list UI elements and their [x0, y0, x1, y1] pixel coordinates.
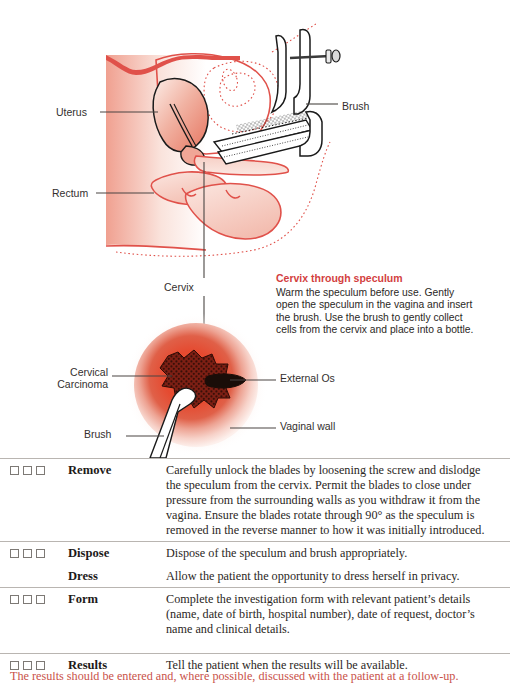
checklist-step-description: Dispose of the speculum and brush approp…	[166, 542, 510, 565]
speculum-arm-lower	[272, 36, 286, 112]
label-cervix: Cervix	[164, 281, 194, 293]
checklist-step-label: Remove	[68, 459, 166, 542]
checklist-step-label: Dress	[68, 565, 166, 588]
textbook-page: Uterus Rectum Brush Cervix Cervical Carc…	[0, 0, 510, 685]
checklist-spacer-cell	[0, 640, 510, 654]
cervix-through-speculum-note: Cervix through speculum Warm the speculu…	[276, 272, 476, 337]
sidenote-body: Warm the speculum before use. Gently ope…	[276, 287, 476, 337]
thumbscrew-knob	[332, 50, 340, 62]
checkbox-group	[10, 595, 68, 604]
thumbscrew-collar	[326, 50, 331, 63]
cervix-view-group	[112, 313, 276, 458]
procedure-checklist: RemoveCarefully unlock the blades by loo…	[0, 458, 510, 676]
checklist-row: RemoveCarefully unlock the blades by loo…	[0, 459, 510, 542]
checklist-row: DressAllow the patient the opportunity t…	[0, 565, 510, 588]
checklist-table: RemoveCarefully unlock the blades by loo…	[0, 458, 510, 676]
speculum-arm-upper	[294, 29, 310, 114]
checklist-row: FormComplete the investigation form with…	[0, 587, 510, 640]
checkbox[interactable]	[10, 466, 19, 475]
bladder-detail-ellipse	[220, 67, 240, 92]
label-rectum: Rectum	[52, 187, 88, 199]
checkbox-cell	[0, 565, 68, 588]
checkbox[interactable]	[36, 466, 45, 475]
label-external-os: External Os	[280, 372, 335, 384]
bottom-caption-clip: The results should be entered and, where…	[0, 672, 510, 685]
checklist-row: DisposeDispose of the speculum and brush…	[0, 542, 510, 565]
checkbox[interactable]	[36, 661, 45, 670]
checkbox-cell	[0, 542, 68, 565]
sidenote-heading: Cervix through speculum	[276, 272, 476, 285]
checkbox[interactable]	[23, 595, 32, 604]
label-vaginal-wall: Vaginal wall	[280, 420, 335, 432]
bottom-caption-text: The results should be entered and, where…	[0, 672, 510, 684]
label-brush-bottom: Brush	[84, 428, 111, 440]
thumbscrew-shaft	[290, 56, 330, 58]
label-cervical-carcinoma: Cervical Carcinoma	[28, 366, 108, 390]
checklist-step-description: Complete the investigation form with rel…	[166, 587, 510, 640]
bladder-inner-outline	[220, 73, 255, 106]
clinical-figure: Uterus Rectum Brush Cervix Cervical Carc…	[0, 0, 510, 458]
checklist-step-label: Form	[68, 587, 166, 640]
checkbox[interactable]	[23, 549, 32, 558]
checkbox[interactable]	[23, 466, 32, 475]
checkbox-cell	[0, 587, 68, 640]
checkbox[interactable]	[36, 595, 45, 604]
checkbox-group	[10, 466, 68, 475]
checklist-step-label: Dispose	[68, 542, 166, 565]
checklist-step-description: Allow the patient the opportunity to dre…	[166, 565, 510, 588]
label-brush-top: Brush	[342, 100, 369, 112]
checkbox[interactable]	[10, 595, 19, 604]
checkbox[interactable]	[23, 661, 32, 670]
checkbox[interactable]	[36, 549, 45, 558]
checklist-spacer-row	[0, 640, 510, 654]
checkbox[interactable]	[10, 549, 19, 558]
label-uterus: Uterus	[56, 106, 87, 118]
checklist-step-description: Carefully unlock the blades by loosening…	[166, 459, 510, 542]
checkbox-group	[10, 549, 68, 558]
checklist-body: RemoveCarefully unlock the blades by loo…	[0, 459, 510, 677]
checkbox-group	[10, 661, 68, 670]
checkbox-cell	[0, 459, 68, 542]
checkbox[interactable]	[10, 661, 19, 670]
